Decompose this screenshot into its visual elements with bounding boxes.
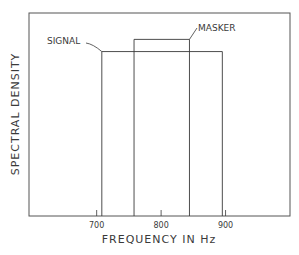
x-axis-label: FREQUENCY IN Hz <box>102 233 217 246</box>
annotations: SIGNALMASKER <box>47 23 235 52</box>
bars <box>102 39 223 216</box>
annotation-masker: MASKER <box>198 23 235 33</box>
x-tick-label: 700 <box>89 221 104 230</box>
signal-leader-line <box>86 43 102 52</box>
annotation-signal: SIGNAL <box>47 36 80 46</box>
chart: 700800900 SIGNALMASKER FREQUENCY IN Hz S… <box>0 0 299 255</box>
bar-masker <box>134 39 189 216</box>
masker-leader-line <box>189 28 197 39</box>
x-tick-label: 900 <box>218 221 233 230</box>
x-ticks: 700800900 <box>89 210 233 230</box>
x-tick-label: 800 <box>153 221 168 230</box>
bar-signal <box>102 52 223 216</box>
y-axis-label: SPECTRAL DENSITY <box>9 53 22 176</box>
